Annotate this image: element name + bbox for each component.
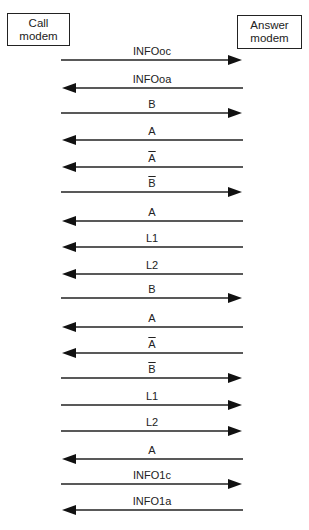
message-arrow-to-call: A	[61, 338, 243, 358]
arrow-left-icon	[61, 505, 243, 515]
arrow-left-icon	[61, 454, 243, 464]
message-arrow-to-call: A	[61, 444, 243, 464]
message-arrow-to-answer: INFO1c	[61, 469, 243, 489]
arrow-right-icon	[61, 187, 243, 197]
message-arrow-to-call: INFOoa	[61, 73, 243, 93]
message-arrow-to-answer: INFOoc	[61, 45, 243, 65]
message-arrow-to-call: A	[61, 152, 243, 172]
arrow-right-icon	[61, 426, 243, 436]
arrow-right-icon	[61, 400, 243, 410]
call-modem-box: Call modem	[7, 13, 70, 46]
answer-modem-label-line1: Answer	[250, 19, 288, 32]
message-arrow-to-answer: L1	[61, 390, 243, 410]
arrow-right-icon	[61, 373, 243, 383]
arrow-left-icon	[61, 269, 243, 279]
arrow-left-icon	[61, 135, 243, 145]
message-arrow-to-answer: B	[61, 177, 243, 197]
answer-modem-box: Answer modem	[237, 15, 302, 49]
arrow-right-icon	[61, 55, 243, 65]
arrow-right-icon	[61, 293, 243, 303]
message-arrow-to-call: INFO1a	[61, 495, 243, 515]
message-arrow-to-call: L2	[61, 259, 243, 279]
arrow-left-icon	[61, 348, 243, 358]
message-arrow-to-call: A	[61, 312, 243, 332]
arrow-right-icon	[61, 479, 243, 489]
arrow-left-icon	[61, 162, 243, 172]
call-modem-label-line2: modem	[19, 30, 57, 43]
message-arrow-to-call: A	[61, 206, 243, 226]
call-modem-label-line1: Call	[19, 17, 57, 30]
message-arrow-to-answer: B	[61, 283, 243, 303]
message-arrow-to-answer: L2	[61, 416, 243, 436]
message-arrow-to-call: A	[61, 125, 243, 145]
message-arrow-to-answer: B	[61, 363, 243, 383]
arrow-right-icon	[61, 108, 243, 118]
arrow-left-icon	[61, 216, 243, 226]
answer-modem-label-line2: modem	[250, 32, 288, 45]
arrow-left-icon	[61, 242, 243, 252]
arrow-left-icon	[61, 83, 243, 93]
message-arrow-to-call: L1	[61, 232, 243, 252]
arrow-left-icon	[61, 322, 243, 332]
message-arrow-to-answer: B	[61, 98, 243, 118]
